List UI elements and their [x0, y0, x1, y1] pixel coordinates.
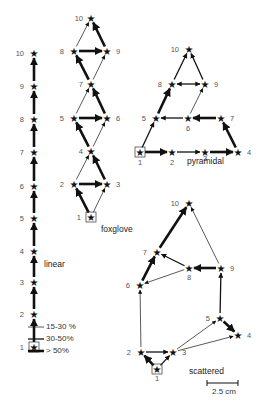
edge-1-3 [93, 188, 105, 212]
node-label: 1 [155, 374, 159, 383]
edge-5-9 [220, 273, 221, 313]
edge-4-5 [76, 122, 88, 146]
flower-star-icon: ★ [153, 247, 162, 258]
diagram-figure: ★1★2★3★4★5★6★7★8★9★10★1★2★3★4★5★6★7★8★9★… [0, 0, 263, 413]
panel-title-scattered: scattered [189, 366, 224, 376]
flower-star-icon: ★ [103, 113, 112, 124]
node-label: 1 [20, 343, 24, 352]
node-label: 8 [158, 80, 162, 89]
node-label: 6 [186, 124, 190, 133]
node-label: 8 [187, 273, 191, 282]
node-label: 9 [214, 80, 218, 89]
flower-star-icon: ★ [234, 330, 243, 341]
edge-9-10 [191, 54, 203, 80]
flower-star-icon: ★ [185, 263, 194, 274]
edge-9-10 [191, 207, 219, 263]
flower-star-icon: ★ [70, 179, 79, 190]
edge-5-7 [76, 88, 89, 113]
flight-pattern-diagrams: ★1★2★3★4★5★6★7★8★9★10★1★2★3★4★5★6★7★8★9★… [0, 0, 263, 413]
edge-1-5 [142, 123, 154, 148]
node-label: 2 [20, 310, 24, 319]
edge-4-7 [223, 122, 236, 147]
node-label: 4 [247, 331, 251, 340]
node-label: 3 [20, 278, 24, 287]
panel-foxglove: ★1★2★3★4★5★6★7★8★9★10 [60, 13, 120, 223]
flower-star-icon: ★ [185, 44, 194, 55]
node-label: 5 [142, 114, 146, 123]
edge-7-9 [93, 55, 105, 79]
flower-star-icon: ★ [30, 277, 39, 288]
node-label: 2 [60, 180, 64, 189]
edge-6-7 [93, 89, 105, 114]
flower-star-icon: ★ [70, 46, 79, 57]
edge-8-10 [174, 53, 187, 79]
node-label: 10 [75, 14, 83, 23]
edge-5-8 [158, 89, 170, 114]
node-label: 4 [247, 148, 251, 157]
edge-3-4 [93, 155, 105, 179]
flower-star-icon: ★ [216, 313, 225, 324]
flower-star-icon: ★ [152, 113, 161, 124]
node-label: 7 [230, 114, 234, 123]
legend-label-1: 15-30 % [46, 322, 76, 331]
panel-title-foxglove: foxglove [101, 224, 133, 234]
legend-label-2: 30-50% [46, 334, 74, 343]
edge-4-6 [93, 122, 105, 146]
node-label: 4 [79, 147, 83, 156]
flower-star-icon: ★ [169, 347, 178, 358]
flower-star-icon: ★ [168, 79, 177, 90]
node-label: 3 [182, 348, 186, 357]
node-label: 6 [116, 114, 120, 123]
panel-pyramidal: ★1★2★3★4★5★6★7★8★9★10 [135, 44, 251, 168]
edge-7-8 [76, 55, 88, 79]
flower-star-icon: ★ [30, 114, 39, 125]
flower-star-icon: ★ [87, 79, 96, 90]
flower-star-icon: ★ [184, 113, 193, 124]
flower-star-icon: ★ [30, 48, 39, 59]
node-label: 5 [206, 314, 210, 323]
edge-3-5 [177, 321, 216, 349]
flower-star-icon: ★ [168, 147, 177, 158]
flower-star-icon: ★ [30, 147, 39, 158]
flower-star-icon: ★ [201, 79, 210, 90]
flower-star-icon: ★ [217, 263, 226, 274]
edge-2-4 [76, 155, 88, 179]
node-label: 2 [127, 348, 131, 357]
panel-scattered: ★1★2★3★4★5★6★7★8★9★10 [126, 198, 251, 384]
edge-2-6 [140, 290, 141, 347]
node-label: 8 [60, 47, 64, 56]
node-label: 10 [171, 45, 179, 54]
flower-star-icon: ★ [103, 179, 112, 190]
edge-8-6 [145, 270, 185, 284]
flower-star-icon: ★ [217, 113, 226, 124]
flower-star-icon: ★ [234, 147, 243, 158]
node-label: 7 [79, 80, 83, 89]
flower-star-icon: ★ [30, 181, 39, 192]
flower-star-icon: ★ [136, 147, 145, 158]
edge-6-7 [142, 256, 154, 280]
node-label: 4 [20, 247, 24, 256]
node-label: 7 [20, 148, 24, 157]
node-label: 1 [77, 213, 81, 222]
node-label: 6 [20, 182, 24, 191]
node-label: 1 [138, 158, 142, 167]
edge-7-10 [160, 207, 187, 248]
flower-star-icon: ★ [30, 309, 39, 320]
node-label: 8 [20, 115, 24, 124]
flower-star-icon: ★ [87, 212, 96, 223]
flower-star-icon: ★ [153, 364, 162, 375]
node-label: 9 [230, 264, 234, 273]
node-label: 9 [116, 47, 120, 56]
node-label: 7 [143, 248, 147, 257]
edge-8-7 [161, 254, 184, 266]
node-label: 6 [126, 281, 130, 290]
flower-star-icon: ★ [70, 113, 79, 124]
panel-linear: ★1★2★3★4★5★6★7★8★9★10 [16, 48, 39, 353]
flower-star-icon: ★ [30, 246, 39, 257]
node-label: 3 [116, 180, 120, 189]
panel-title-linear: linear [44, 259, 65, 269]
flower-star-icon: ★ [87, 13, 96, 24]
scale-bar-label: 2.5 cm [212, 387, 236, 396]
legend-label-3: > 50% [46, 346, 69, 355]
panel-title-pyramidal: pyramidal [187, 156, 224, 166]
